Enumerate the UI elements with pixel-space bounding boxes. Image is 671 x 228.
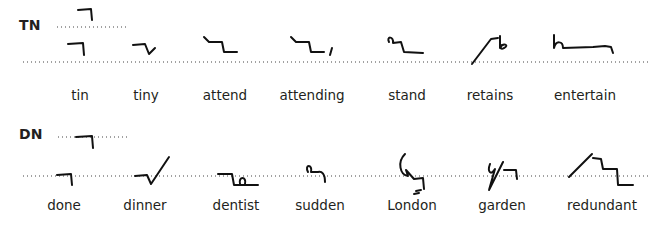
word-label: dentist	[213, 197, 260, 213]
outline-tiny	[133, 44, 155, 54]
word-label: sudden	[295, 197, 345, 213]
outline-attending	[291, 37, 324, 52]
outline-dinner	[135, 157, 169, 184]
tn-section-strokes	[23, 9, 651, 64]
outline-garden	[489, 162, 517, 190]
outline-redundant	[569, 154, 633, 185]
dn-section-strokes	[23, 136, 651, 194]
outline-done	[57, 174, 72, 185]
word-label: entertain	[554, 87, 616, 103]
word-label: London	[387, 197, 437, 213]
section-label-dn: DN	[19, 126, 43, 142]
outline-sudden	[307, 166, 325, 182]
outline-london	[400, 154, 424, 194]
word-label: attending	[279, 87, 344, 103]
word-label: tin	[71, 87, 89, 103]
outline-attending-dot	[330, 48, 332, 55]
outline-tin	[68, 43, 84, 55]
section-label-tn: TN	[19, 17, 41, 33]
word-label: tiny	[133, 87, 159, 103]
word-label: retains	[467, 87, 513, 103]
word-label: stand	[388, 87, 426, 103]
outline-attend	[204, 37, 237, 52]
tn-sample-outline	[78, 9, 92, 20]
word-label: redundant	[567, 197, 637, 213]
word-label: attend	[203, 87, 247, 103]
shorthand-strokes	[0, 0, 671, 228]
dn-sample-outline	[76, 136, 93, 148]
outline-entertain	[554, 35, 613, 53]
word-label: garden	[478, 197, 526, 213]
outline-stand	[388, 38, 423, 53]
word-label: done	[47, 197, 81, 213]
word-label: dinner	[123, 197, 166, 213]
outline-retains	[472, 36, 506, 64]
